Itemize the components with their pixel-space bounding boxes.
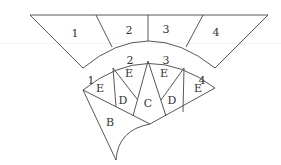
region-label: D <box>119 94 128 107</box>
b-region <box>83 90 150 160</box>
band-divider-1 <box>96 15 112 47</box>
region-label: B <box>106 116 114 129</box>
region-label: E <box>160 67 168 80</box>
arc-label: 3 <box>163 54 170 67</box>
fan-diagram: 1 2 3 4 1 2 3 4 E E D C E D E B <box>0 0 281 165</box>
fan-left-vertical <box>113 68 116 107</box>
region-label: C <box>144 97 152 110</box>
arc-label: 2 <box>127 54 134 67</box>
region-label: E <box>125 67 133 80</box>
region-label: D <box>168 94 177 107</box>
top-band-label: 2 <box>126 24 133 37</box>
top-band-label: 4 <box>213 26 220 39</box>
region-label: E <box>96 82 104 95</box>
top-band <box>30 15 268 68</box>
right-slant <box>215 15 268 68</box>
top-band-label: 3 <box>163 23 170 36</box>
band-divider-3 <box>186 15 203 47</box>
b-concave-edge <box>116 124 150 160</box>
region-label: E <box>194 82 202 95</box>
left-slant <box>30 15 83 68</box>
arc-label: 1 <box>88 74 95 87</box>
top-band-label: 1 <box>72 27 79 40</box>
